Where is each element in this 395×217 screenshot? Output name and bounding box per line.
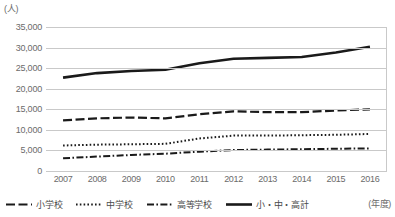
series-lines [46, 27, 387, 171]
legend-swatch-solid-icon [226, 200, 252, 209]
gridline [46, 171, 387, 172]
gridline [46, 109, 387, 110]
legend-item[interactable]: 小・中・高計 [226, 198, 309, 211]
series-line [63, 109, 370, 120]
y-axis-tick: 15,000 [16, 104, 42, 114]
legend-label: 小・中・高計 [256, 198, 309, 211]
legend-swatch-dashed-icon [6, 200, 32, 209]
x-axis-tick: 2014 [292, 174, 311, 184]
chart-legend: 小学校中学校高等学校小・中・高計 [0, 194, 395, 214]
x-axis-tick: 2008 [88, 174, 107, 184]
series-line [63, 134, 370, 146]
legend-label: 小学校 [36, 198, 62, 211]
x-axis-tick: 2015 [326, 174, 345, 184]
y-axis-tick: 20,000 [16, 84, 42, 94]
line-chart: (人) 05,00010,00015,00020,00025,00030,000… [0, 0, 395, 217]
legend-item[interactable]: 小学校 [6, 198, 62, 211]
x-axis-tick: 2012 [224, 174, 243, 184]
gridline [46, 130, 387, 131]
gridline [46, 89, 387, 90]
y-axis-tick: 35,000 [16, 22, 42, 32]
y-axis-tick: 25,000 [16, 63, 42, 73]
legend-swatch-dotted-icon [76, 200, 102, 209]
legend-item[interactable]: 高等学校 [147, 198, 212, 211]
x-axis-unit-label: (年度) [368, 194, 391, 214]
x-axis-tick: 2013 [258, 174, 277, 184]
plot-area [46, 27, 387, 171]
legend-item[interactable]: 中学校 [76, 198, 132, 211]
gridline [46, 48, 387, 49]
legend-label: 中学校 [106, 198, 132, 211]
x-axis-tick: 2007 [54, 174, 73, 184]
x-axis-tick: 2009 [122, 174, 141, 184]
y-axis-tick: 0 [37, 166, 42, 176]
x-axis-tick: 2011 [190, 174, 208, 184]
y-axis-tick: 30,000 [16, 43, 42, 53]
y-axis-tick: 10,000 [16, 125, 42, 135]
gridline [46, 68, 387, 69]
y-axis-tick: 5,000 [20, 145, 42, 155]
y-axis-tick-labels: 05,00010,00015,00020,00025,00030,00035,0… [0, 27, 42, 171]
gridline [46, 27, 387, 28]
x-axis-tick: 2016 [361, 174, 380, 184]
gridline [46, 150, 387, 151]
legend-swatch-dash-dot-icon [147, 200, 173, 209]
legend-label: 高等学校 [177, 198, 212, 211]
series-line [63, 47, 370, 78]
y-axis-unit-label: (人) [4, 2, 18, 15]
x-axis-tick: 2010 [156, 174, 175, 184]
